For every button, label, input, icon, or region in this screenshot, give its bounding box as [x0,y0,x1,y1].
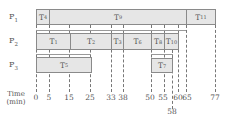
time-marker-65 [186,25,187,92]
task-t6: T6 [124,34,152,49]
processor-bar-p2: T1 T2 T3 T6 T8 T10 [36,33,179,50]
tick-25: 25 [85,93,95,102]
task-t11: T11 [187,10,215,24]
processor-label-p2: P2 [9,36,18,49]
task-t4: T4 [37,10,50,24]
task-t7: T7 [151,58,173,73]
tick-58: 58 [167,107,177,116]
bracket-p2-p3 [36,54,91,55]
processor-bar-p1: T4 T9 T11 [36,9,216,25]
bracket-p1-p2 [36,30,186,31]
tick-0: 0 [34,93,39,102]
task-t3: T3 [112,34,124,49]
processor-label-p3: P3 [9,60,18,73]
task-t5-label: T5 [37,58,91,72]
tick-15: 15 [64,93,74,102]
task-t2: T2 [71,34,112,49]
task-t8: T8 [152,34,165,49]
task-t7-label: T7 [152,59,172,72]
task-t5: T5 [36,57,92,73]
axis-title: Time (min) [2,90,30,106]
time-marker-77 [215,25,216,92]
task-t10: T10 [165,34,178,49]
bracket-p2-p3-b [151,54,173,55]
processor-label-p1: P1 [9,12,18,25]
tick-33: 33 [106,93,116,102]
tick-77: 77 [210,93,220,102]
task-t9: T9 [50,10,187,24]
tick-65: 65 [182,93,192,102]
tick-5: 5 [47,93,52,102]
tick-50: 50 [145,93,155,102]
tick-55: 55 [158,93,168,102]
task-t1: T1 [37,34,71,49]
tick-38: 38 [118,93,128,102]
